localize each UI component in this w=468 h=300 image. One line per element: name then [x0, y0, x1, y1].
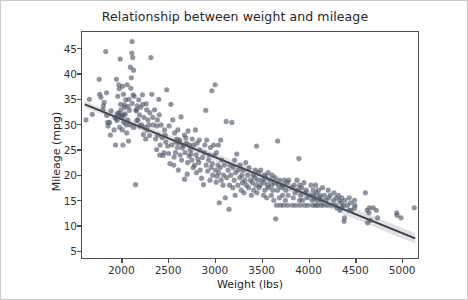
scatter-point — [242, 178, 247, 183]
scatter-point — [213, 82, 218, 87]
scatter-point — [254, 190, 259, 195]
scatter-point — [202, 142, 207, 147]
scatter-point — [123, 111, 128, 116]
scatter-point — [87, 97, 92, 102]
scatter-point — [296, 156, 301, 161]
scatter-point — [211, 142, 216, 147]
scatter-point — [197, 147, 202, 152]
scatter-point — [141, 132, 146, 137]
scatter-point — [145, 117, 150, 122]
x-tick-mark — [355, 259, 356, 263]
scatter-point — [319, 198, 324, 203]
scatter-point — [228, 173, 233, 178]
scatter-point — [147, 110, 152, 115]
scatter-point — [352, 203, 357, 208]
scatter-point — [230, 165, 235, 170]
y-tick-label: 45 — [43, 43, 77, 55]
scatter-point — [201, 182, 206, 187]
scatter-point — [270, 188, 275, 193]
scatter-point — [299, 185, 304, 190]
scatter-point — [175, 127, 180, 132]
scatter-point — [206, 152, 211, 157]
scatter-point — [300, 198, 305, 203]
scatter-point — [136, 97, 141, 102]
scatter-point — [210, 173, 215, 178]
scatter-point — [183, 135, 188, 140]
scatter-point — [170, 117, 175, 122]
scatter-point — [233, 193, 238, 198]
scatter-point — [223, 195, 228, 200]
scatter-point — [109, 108, 114, 113]
scatter-point — [90, 112, 95, 117]
scatter-point — [130, 55, 135, 60]
scatter-point — [204, 163, 209, 168]
scatter-point — [145, 127, 150, 132]
scatter-point — [412, 205, 417, 210]
scatter-point — [197, 137, 202, 142]
scatter-point — [129, 51, 134, 56]
scatter-point — [325, 203, 330, 208]
scatter-point — [168, 102, 173, 107]
scatter-point — [162, 127, 167, 132]
scatter-point — [131, 68, 136, 73]
scatter-point — [225, 168, 230, 173]
scatter-point — [230, 185, 235, 190]
scatter-point — [214, 180, 219, 185]
scatter-point — [304, 188, 309, 193]
scatter-point — [113, 142, 118, 147]
scatter-point — [98, 95, 103, 100]
scatter-point — [144, 101, 149, 106]
scatter-point — [173, 150, 178, 155]
scatter-point — [114, 118, 119, 123]
scatter-point — [241, 190, 246, 195]
scatter-point — [148, 55, 153, 60]
scatter-point — [286, 178, 291, 183]
scatter-point — [163, 132, 168, 137]
scatter-point — [217, 200, 222, 205]
scatter-point — [147, 133, 152, 138]
scatter-point — [161, 150, 166, 155]
scatter-point — [224, 119, 229, 124]
scatter-point — [222, 163, 227, 168]
scatter-point — [236, 168, 241, 173]
x-axis-label: Weight (lbs) — [81, 278, 419, 291]
y-axis-label: Mileage (mpg) — [50, 72, 63, 232]
scatter-point — [374, 208, 379, 213]
scatter-point — [107, 120, 112, 125]
scatter-point — [130, 101, 135, 106]
scatter-point — [267, 178, 272, 183]
scatter-point — [154, 147, 159, 152]
scatter-point — [214, 150, 219, 155]
scatter-point — [216, 142, 221, 147]
scatter-point — [219, 157, 224, 162]
scatter-point — [120, 84, 125, 89]
scatter-point — [126, 97, 131, 102]
y-tick-label: 5 — [43, 245, 77, 257]
scatter-point — [164, 87, 169, 92]
scatter-point — [264, 195, 269, 200]
scatter-point — [166, 151, 171, 156]
scatter-point — [131, 125, 136, 130]
scatter-point — [126, 138, 131, 143]
scatter-point — [232, 178, 237, 183]
scatter-point — [198, 168, 203, 173]
scatter-point — [129, 39, 134, 44]
scatter-point — [269, 193, 274, 198]
scatter-point — [375, 215, 380, 220]
scatter-point — [246, 185, 251, 190]
scatter-point — [132, 94, 137, 99]
scatter-point — [286, 193, 291, 198]
scatter-point — [185, 172, 190, 177]
scatter-point — [120, 127, 125, 132]
scatter-point — [216, 170, 221, 175]
plot-area — [81, 31, 419, 259]
scatter-point — [186, 128, 191, 133]
scatter-point — [275, 138, 280, 143]
scatter-point — [178, 152, 183, 157]
scatter-point — [238, 163, 243, 168]
scatter-point — [175, 145, 180, 150]
scatter-point — [280, 193, 285, 198]
scatter-point — [283, 198, 288, 203]
scatter-point — [219, 178, 224, 183]
scatter-point — [234, 151, 239, 156]
